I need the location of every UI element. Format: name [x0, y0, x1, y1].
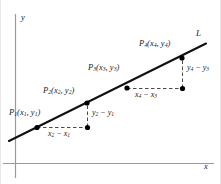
point-marker-p1 — [34, 125, 39, 130]
dx-lower-s2: 1 — [67, 132, 70, 138]
point-marker-p4 — [179, 55, 184, 60]
slope-figure: y x L P1(x1, y1) P2(x2, y2) P3(x3, y3) P… — [0, 0, 221, 184]
p1-coords-open: (x — [17, 107, 24, 117]
frame-edges — [1, 0, 221, 184]
p1-coords-close: ) — [38, 107, 41, 117]
p1-coords-mid: , y — [27, 107, 35, 117]
diff-label-dy-upper: y4 − y3 — [187, 64, 209, 73]
dy-lower-s2: 1 — [111, 111, 114, 117]
diff-label-dx-lower: x2 − x1 — [48, 130, 70, 139]
p3-coords-mid: , y — [106, 62, 114, 72]
dy-upper-s2: 3 — [206, 66, 209, 72]
x-axis-label: x — [204, 162, 208, 171]
point-marker-p2 — [84, 100, 89, 105]
point-label-p3: P3(x3, y3) — [88, 63, 119, 73]
y-axis-label: y — [21, 13, 25, 22]
p3-coords-close: ) — [117, 62, 120, 72]
point-marker-p3 — [124, 85, 129, 90]
upper-slope-triangle — [127, 58, 183, 89]
point-label-p4: P4(x4, y4) — [139, 39, 170, 49]
diff-label-dx-upper: x4 − x3 — [135, 91, 157, 100]
dy-lower-op: − y — [98, 108, 111, 117]
p4-coords-open: (x — [147, 38, 154, 48]
dx-lower-op: − x — [54, 129, 67, 138]
line-label-L: L — [196, 29, 201, 38]
corner-marker-upper — [180, 86, 185, 91]
p4-coords-close: ) — [168, 38, 171, 48]
dx-upper-op: − x — [141, 90, 154, 99]
corner-marker-lower — [85, 125, 90, 130]
p2-coords-mid: , y — [61, 85, 69, 95]
figure-canvas — [0, 0, 221, 184]
p2-coords-close: ) — [72, 85, 75, 95]
dx-upper-s2: 3 — [154, 93, 157, 99]
dy-upper-op: − y — [193, 63, 206, 72]
p2-coords-open: (x — [51, 85, 58, 95]
diff-label-dy-lower: y2 − y1 — [92, 109, 114, 118]
p4-coords-mid: , y — [157, 38, 165, 48]
point-label-p1: P1(x1, y1) — [9, 108, 40, 118]
p3-coords-open: (x — [96, 62, 103, 72]
point-label-p2: P2(x2, y2) — [43, 86, 74, 96]
